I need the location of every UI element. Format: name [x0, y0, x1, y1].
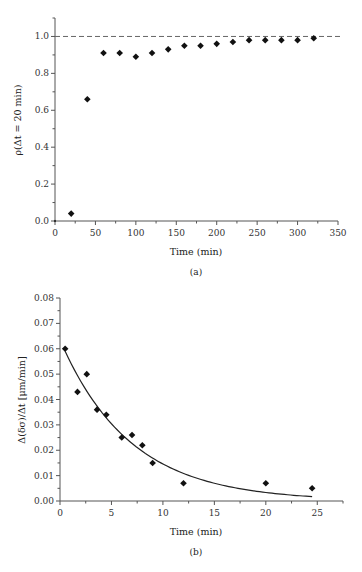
data-point — [94, 406, 101, 413]
data-point — [230, 39, 237, 46]
panel-b-caption: (b) — [190, 547, 203, 557]
panel-a-y-axis-title: ρ(Δt = 20 min) — [12, 85, 23, 156]
panel-b-data-points — [62, 345, 316, 491]
data-point — [149, 50, 156, 57]
x-tick-label: 50 — [90, 228, 102, 238]
y-tick-label: 0.04 — [34, 395, 54, 405]
y-tick-label: 0.8 — [35, 68, 50, 78]
data-point — [246, 37, 253, 44]
figure: 0501001502002503003500.00.20.40.60.81.0 … — [0, 0, 362, 572]
panel-a-caption: (a) — [190, 267, 202, 277]
data-point — [116, 50, 123, 57]
panel-a-x-axis-title: Time (min) — [170, 246, 223, 257]
y-tick-label: 0.02 — [34, 445, 54, 455]
y-tick-label: 0.07 — [34, 318, 54, 328]
data-point — [139, 442, 146, 449]
y-tick-label: 0.01 — [34, 471, 54, 481]
data-point — [62, 345, 69, 352]
data-point — [103, 411, 110, 418]
data-point — [74, 389, 81, 396]
x-tick-label: 150 — [168, 228, 185, 238]
panel-b-fit-curve — [65, 351, 312, 496]
data-point — [68, 210, 75, 217]
y-tick-label: 0.2 — [35, 179, 49, 189]
data-point — [83, 371, 90, 378]
data-point — [54, 220, 56, 222]
x-tick-label: 250 — [249, 228, 266, 238]
data-point — [180, 480, 187, 487]
data-point — [149, 460, 156, 467]
data-point — [84, 96, 91, 103]
data-point — [133, 53, 140, 60]
data-point — [262, 37, 269, 44]
panel-b-ticks: 05101520250.000.010.020.030.040.050.060.… — [34, 293, 343, 518]
data-point — [309, 485, 316, 492]
y-tick-label: 0.05 — [34, 369, 54, 379]
data-point — [118, 434, 125, 441]
panel-b-y-axis-title: Δ(δσ)/Δt [μm/min] — [16, 356, 27, 443]
data-point — [294, 37, 301, 44]
panel-a-scatter-plot: 0501001502002503003500.00.20.40.60.81.0 … — [12, 18, 347, 277]
x-tick-label: 20 — [260, 508, 272, 518]
y-tick-label: 0.00 — [34, 496, 54, 506]
data-point — [213, 41, 220, 48]
fit-curve — [65, 351, 312, 496]
panel-a-ticks: 0501001502002503003500.00.20.40.60.81.0 — [35, 18, 347, 238]
y-tick-label: 0.4 — [35, 142, 50, 152]
x-tick-label: 200 — [208, 228, 225, 238]
data-point — [181, 42, 188, 49]
data-point — [278, 37, 285, 44]
x-tick-label: 100 — [127, 228, 144, 238]
panel-a-axes — [55, 18, 338, 221]
data-point — [100, 50, 107, 57]
x-tick-label: 0 — [52, 228, 58, 238]
x-tick-label: 15 — [209, 508, 221, 518]
x-tick-label: 0 — [57, 508, 63, 518]
x-tick-label: 10 — [157, 508, 169, 518]
panel-a-data-points — [54, 35, 317, 222]
y-tick-label: 0.03 — [34, 420, 54, 430]
data-point — [263, 480, 270, 487]
x-tick-label: 25 — [312, 508, 324, 518]
x-tick-label: 350 — [329, 228, 346, 238]
y-tick-label: 1.0 — [35, 31, 50, 41]
y-tick-label: 0.06 — [34, 344, 54, 354]
panel-b-x-axis-title: Time (min) — [170, 526, 223, 537]
data-point — [197, 42, 204, 49]
data-point — [165, 46, 172, 53]
panel-b-axes — [60, 298, 343, 501]
data-point — [129, 432, 136, 439]
panel-b-scatter-plot: 05101520250.000.010.020.030.040.050.060.… — [16, 293, 343, 557]
y-tick-label: 0.08 — [34, 293, 54, 303]
x-tick-label: 5 — [109, 508, 115, 518]
y-tick-label: 0.6 — [35, 105, 50, 115]
y-tick-label: 0.0 — [35, 216, 50, 226]
x-tick-label: 300 — [289, 228, 306, 238]
